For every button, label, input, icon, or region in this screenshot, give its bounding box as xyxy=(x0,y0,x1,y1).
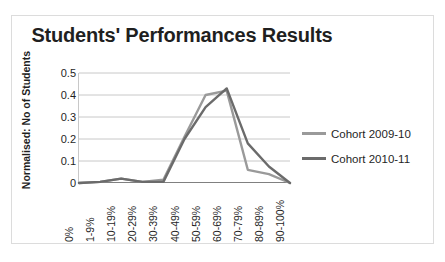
x-tick-label: 80-89% xyxy=(254,206,264,242)
y-axis-title: Normalised: No of Students xyxy=(20,50,32,190)
y-axis-tick-labels: 0.50.40.30.20.10 xyxy=(48,16,76,245)
y-tick-label: 0.1 xyxy=(50,156,76,166)
x-tick-label: 1-9% xyxy=(85,217,95,242)
plot-area xyxy=(78,73,289,183)
y-tick-label: 0.3 xyxy=(50,112,76,122)
y-tick-label: 0.4 xyxy=(50,90,76,100)
y-tick-label: 0.5 xyxy=(50,68,76,78)
legend-swatch-icon xyxy=(302,132,326,135)
x-tick-label: 70-79% xyxy=(233,206,243,242)
x-tick-label: 40-49% xyxy=(170,206,180,242)
y-tick-label: 0 xyxy=(50,178,76,188)
x-tick-label: 10-19% xyxy=(106,206,116,242)
series-line-0 xyxy=(79,91,290,183)
legend-item[interactable]: Cohort 2010-11 xyxy=(302,146,434,171)
chart-legend: Cohort 2009-10Cohort 2010-11 xyxy=(302,121,434,171)
gridlines xyxy=(79,73,290,161)
legend-swatch-icon xyxy=(302,157,326,160)
x-tick-label: 90-100% xyxy=(275,200,285,242)
x-tick-label: 60-69% xyxy=(212,206,222,242)
chart-card: Students' Performances Results Normalise… xyxy=(11,15,434,244)
x-tick-label: 50-59% xyxy=(191,206,201,242)
series-lines xyxy=(79,73,290,183)
legend-item[interactable]: Cohort 2009-10 xyxy=(302,121,434,146)
x-tick-label: 0% xyxy=(64,227,74,242)
x-axis-tick-labels: 0%1-9%10-19%20-29%30-39%40-49%50-59%60-6… xyxy=(78,184,289,242)
x-tick-label: 20-29% xyxy=(127,206,137,242)
y-tick-label: 0.2 xyxy=(50,134,76,144)
x-tick-label: 30-39% xyxy=(148,206,158,242)
legend-label: Cohort 2010-11 xyxy=(331,153,410,165)
legend-label: Cohort 2009-10 xyxy=(331,128,411,140)
